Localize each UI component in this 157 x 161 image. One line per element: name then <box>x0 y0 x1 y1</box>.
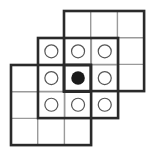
open-circle-icon <box>72 98 85 111</box>
open-circle-icon <box>45 45 58 58</box>
filled-circle-icon <box>71 71 85 85</box>
open-circle-icon <box>45 72 58 85</box>
open-circle-icon <box>98 98 111 111</box>
open-circle-icon <box>72 45 85 58</box>
open-circle-icon <box>98 45 111 58</box>
neighborhood-circles <box>45 45 111 111</box>
open-circle-icon <box>98 72 111 85</box>
grid-diagram <box>0 0 157 161</box>
open-circle-icon <box>45 98 58 111</box>
